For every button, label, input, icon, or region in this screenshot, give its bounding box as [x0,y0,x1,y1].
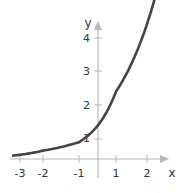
x-tick-label: -1 [74,167,85,180]
x-tick-label: 2 [144,167,151,180]
y-tick-label: 2 [83,99,90,112]
y-axis-arrow-icon [94,21,102,30]
x-tick-label: -2 [38,167,49,180]
y-tick-label: 4 [83,32,90,45]
y-axis-label: y [84,16,91,30]
exponential-chart: -3 -2 -1 1 2 1 2 3 4 x y [0,0,191,193]
x-tick-label: 1 [113,167,120,180]
x-axis-label: x [168,166,175,180]
x-tick-label: -3 [15,167,26,180]
x-axis-arrow-icon [160,155,169,163]
y-tick-label: 3 [83,65,90,78]
